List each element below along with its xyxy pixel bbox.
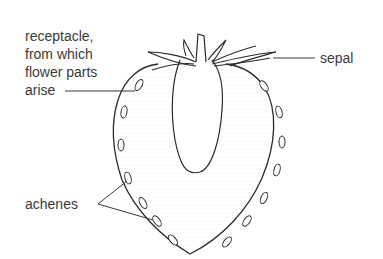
achenes-leader-upper (98, 181, 127, 204)
achenes-label: achenes (25, 196, 78, 212)
receptacle-label-line2: from which (25, 46, 93, 62)
sepal-label: sepal (320, 50, 353, 66)
receptacle-label-line1: receptacle, (25, 28, 93, 44)
stem (196, 34, 206, 62)
receptacle-label-line4: arise (25, 82, 55, 98)
receptacle-label-line3: flower parts (25, 64, 97, 80)
